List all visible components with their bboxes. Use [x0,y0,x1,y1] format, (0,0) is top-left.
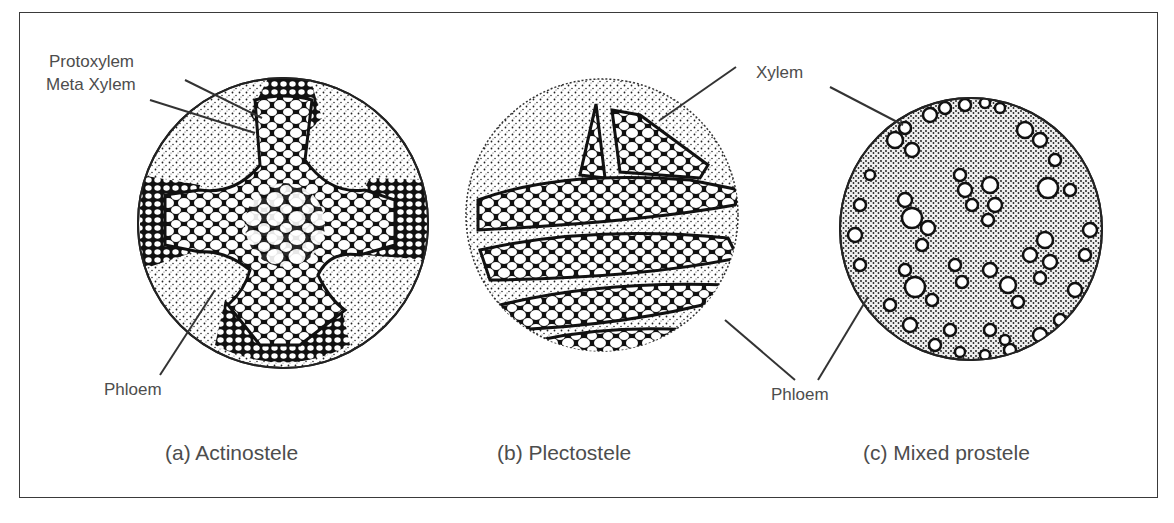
xylem-label: Xylem [756,64,803,81]
phloem-b-leader [725,320,795,380]
protoxylem-label: Protoxylem [49,53,134,70]
caption-plectostele: (b) Plectostele [497,442,631,463]
phloem-label-shared: Phloem [771,386,829,403]
metaxylem-label: Meta Xylem [46,76,136,93]
caption-actinostele: (a) Actinostele [165,442,298,463]
actinostele-drawing [138,78,428,368]
phloem-label-a: Phloem [104,381,162,398]
caption-mixed-prostele: (c) Mixed prostele [863,442,1030,463]
phloem-c-leader [818,297,868,380]
xylem-c-leader [830,87,903,125]
plectostele-drawing [466,79,740,360]
xylem-b-leader [660,67,736,120]
mixed-prostele-drawing [840,98,1102,360]
